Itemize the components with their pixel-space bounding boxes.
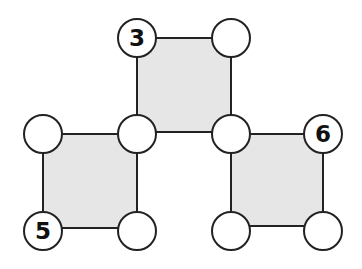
node-circle-shape[interactable] (304, 212, 342, 250)
node-label: 5 (35, 218, 51, 244)
node-circle-n1[interactable]: 3 (118, 19, 156, 57)
node-circle-n5[interactable] (212, 115, 250, 153)
node-label: 3 (129, 25, 145, 51)
node-circle-n2[interactable] (212, 19, 250, 57)
squares-group (43, 38, 323, 228)
node-circle-n4[interactable] (118, 115, 156, 153)
node-circle-n10[interactable] (304, 212, 342, 250)
node-circle-shape[interactable] (24, 115, 62, 153)
node-circle-n9[interactable] (212, 212, 250, 250)
node-circle-n3[interactable] (24, 115, 62, 153)
node-circle-shape[interactable] (212, 212, 250, 250)
node-circle-shape[interactable] (118, 212, 156, 250)
node-circle-shape[interactable] (212, 19, 250, 57)
node-circle-shape[interactable] (118, 115, 156, 153)
node-circle-n7[interactable]: 5 (24, 212, 62, 250)
node-label: 6 (315, 121, 331, 147)
node-circle-shape[interactable] (212, 115, 250, 153)
node-circle-n6[interactable]: 6 (304, 115, 342, 153)
square-number-puzzle-diagram: 365 (0, 0, 362, 269)
node-circle-n8[interactable] (118, 212, 156, 250)
